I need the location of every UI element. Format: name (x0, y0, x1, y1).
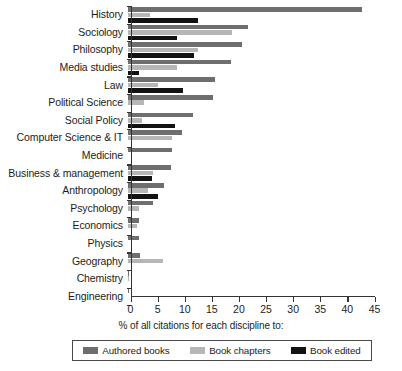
category-rows: HistorySociologyPhilosophyMedia studiesL… (0, 6, 402, 305)
y-tick (127, 94, 132, 95)
y-tick (127, 217, 132, 218)
chart-row: Media studies (0, 59, 402, 77)
bar-2 (128, 194, 158, 199)
bars-cell (128, 235, 402, 253)
bar-chart: HistorySociologyPhilosophyMedia studiesL… (0, 0, 402, 371)
category-label: Chemistry (0, 273, 128, 284)
category-label: Sociology (0, 27, 128, 38)
category-label: Social Policy (0, 115, 128, 126)
y-tick (127, 288, 132, 289)
bars-cell (128, 94, 402, 112)
x-tick-label: 5 (143, 303, 173, 315)
chart-row: Economics (0, 217, 402, 235)
category-label: Medicine (0, 150, 128, 161)
category-label: Engineering (0, 291, 128, 302)
y-tick (127, 147, 132, 148)
y-tick (127, 59, 132, 60)
chart-row: Chemistry (0, 270, 402, 288)
bar-2 (128, 18, 198, 23)
chart-row: Psychology (0, 200, 402, 218)
category-label: Computer Science & IT (0, 132, 128, 143)
y-tick (127, 6, 132, 7)
bars-cell (128, 76, 402, 94)
bar-2 (128, 53, 194, 58)
bar-0 (128, 95, 213, 100)
chart-row: Philosophy (0, 41, 402, 59)
x-tick-label: 0 (116, 303, 146, 315)
x-tick (131, 297, 132, 302)
x-tick-label: 35 (305, 303, 335, 315)
plot-area: HistorySociologyPhilosophyMedia studiesL… (0, 0, 402, 300)
y-tick (127, 76, 132, 77)
x-tick-label: 45 (360, 303, 390, 315)
category-label: Philosophy (0, 44, 128, 55)
bar-0 (128, 7, 362, 12)
bars-cell (128, 182, 402, 200)
chart-row: Anthropology (0, 182, 402, 200)
bars-cell (128, 164, 402, 182)
bar-2 (128, 124, 175, 129)
x-tick-label: 15 (197, 303, 227, 315)
bars-cell (128, 41, 402, 59)
legend-swatch-icon (291, 347, 306, 355)
bar-2 (128, 36, 177, 41)
y-tick (127, 252, 132, 253)
x-tick (293, 297, 294, 302)
legend-swatch-icon (83, 347, 98, 355)
legend-label: Authored books (102, 345, 169, 356)
bars-cell (128, 270, 402, 288)
y-tick (127, 164, 132, 165)
chart-row: Law (0, 76, 402, 94)
bar-1 (128, 136, 172, 141)
category-label: Political Science (0, 97, 128, 108)
x-tick (375, 297, 376, 302)
chart-row: History (0, 6, 402, 24)
chart-row: Physics (0, 235, 402, 253)
x-tick-label: 40 (332, 303, 362, 315)
bar-0 (128, 271, 129, 276)
x-tick-label: 30 (278, 303, 308, 315)
legend-label: Book edited (310, 345, 361, 356)
bar-1 (128, 83, 158, 88)
x-axis-line (131, 296, 375, 297)
bar-0 (128, 165, 171, 170)
chart-row: Sociology (0, 24, 402, 42)
bar-1 (128, 48, 198, 53)
category-label: History (0, 9, 128, 20)
bars-cell (128, 147, 402, 165)
legend-entry: Authored books (83, 345, 169, 356)
bar-0 (128, 25, 248, 30)
x-tick (212, 297, 213, 302)
bar-1 (128, 30, 232, 35)
legend-entry: Book edited (291, 345, 361, 356)
y-tick (127, 235, 132, 236)
x-axis-title: % of all citations for each discipline t… (0, 320, 402, 331)
bars-cell (128, 6, 402, 24)
bars-cell (128, 252, 402, 270)
y-tick (127, 270, 132, 271)
chart-row: Computer Science & IT (0, 129, 402, 147)
y-tick (127, 200, 132, 201)
bar-0 (128, 148, 172, 153)
category-label: Law (0, 80, 128, 91)
y-tick (127, 41, 132, 42)
bar-0 (128, 289, 129, 294)
category-label: Anthropology (0, 185, 128, 196)
bars-cell (128, 112, 402, 130)
bar-0 (128, 60, 231, 65)
bars-cell (128, 24, 402, 42)
y-tick (127, 24, 132, 25)
category-label: Media studies (0, 62, 128, 73)
bars-cell (128, 129, 402, 147)
chart-row: Social Policy (0, 112, 402, 130)
category-label: Geography (0, 256, 128, 267)
x-tick (266, 297, 267, 302)
bars-cell (128, 217, 402, 235)
chart-row: Medicine (0, 147, 402, 165)
bar-1 (128, 224, 137, 229)
bar-1 (128, 259, 163, 264)
x-tick (239, 297, 240, 302)
legend: Authored booksBook chaptersBook edited (72, 340, 372, 361)
bar-1 (128, 65, 177, 70)
y-tick (127, 112, 132, 113)
